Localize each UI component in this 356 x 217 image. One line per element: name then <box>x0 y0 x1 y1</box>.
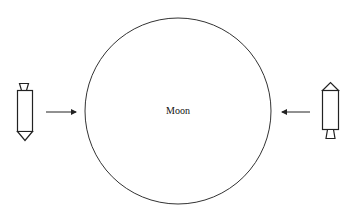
moon: Moon <box>85 18 271 204</box>
moon-label: Moon <box>166 105 190 116</box>
right-rocket-nozzle <box>326 130 335 139</box>
left-rocket-body <box>18 91 33 132</box>
left-rocket-nose <box>18 132 33 141</box>
right-rocket-body <box>323 91 339 130</box>
right-rocket <box>323 83 339 139</box>
right-rocket-nose <box>323 83 339 91</box>
left-rocket <box>18 84 33 141</box>
diagram-canvas: Moon <box>0 0 356 217</box>
left-rocket-nozzle <box>20 84 29 91</box>
